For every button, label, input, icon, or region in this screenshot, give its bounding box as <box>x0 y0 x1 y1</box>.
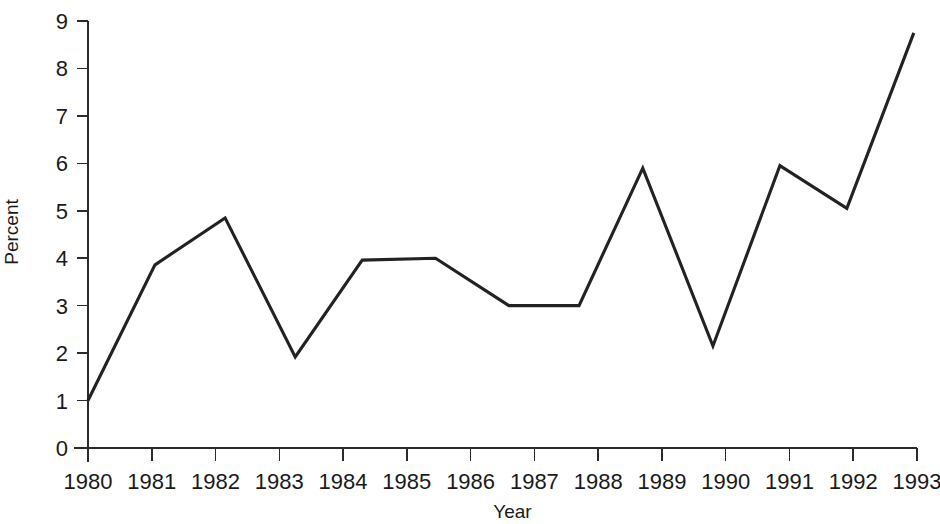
y-tick-label: 5 <box>56 199 68 224</box>
x-tick-label: 1987 <box>510 469 559 494</box>
y-tick-label: 9 <box>56 9 68 34</box>
y-tick-label: 2 <box>56 341 68 366</box>
x-tick-label: 1984 <box>319 469 368 494</box>
x-axis-tick-labels: 1980198119821983198419851986198719881989… <box>64 469 940 494</box>
x-axis-title: Year <box>493 501 532 522</box>
x-tick-label: 1988 <box>574 469 623 494</box>
y-tick-label: 4 <box>56 246 68 271</box>
line-chart-figure: 0123456789 19801981198219831984198519861… <box>0 0 940 524</box>
x-tick-label: 1989 <box>637 469 686 494</box>
x-tick-label: 1980 <box>64 469 113 494</box>
x-tick-label: 1982 <box>191 469 240 494</box>
y-tick-label: 7 <box>56 104 68 129</box>
y-axis-ticks <box>77 21 88 448</box>
y-tick-label: 0 <box>56 436 68 461</box>
y-axis-title: Percent <box>1 199 22 265</box>
x-tick-label: 1985 <box>382 469 431 494</box>
y-axis-tick-labels: 0123456789 <box>56 9 68 461</box>
x-tick-label: 1993 <box>893 469 940 494</box>
chart-canvas: 0123456789 19801981198219831984198519861… <box>0 0 940 524</box>
x-tick-label: 1983 <box>255 469 304 494</box>
x-axis-ticks <box>88 448 917 461</box>
x-tick-label: 1990 <box>701 469 750 494</box>
x-tick-label: 1992 <box>829 469 878 494</box>
x-tick-label: 1991 <box>765 469 814 494</box>
data-series-line <box>88 33 914 401</box>
y-tick-label: 3 <box>56 294 68 319</box>
y-tick-label: 1 <box>56 389 68 414</box>
y-tick-label: 8 <box>56 56 68 81</box>
x-tick-label: 1986 <box>446 469 495 494</box>
x-tick-label: 1981 <box>127 469 176 494</box>
y-tick-label: 6 <box>56 151 68 176</box>
